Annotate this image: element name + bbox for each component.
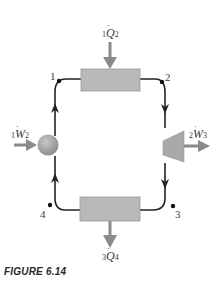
heat-in-label: 1·Q2 <box>102 27 119 39</box>
pump-icon <box>38 135 59 156</box>
work-in-label: 1·W2 <box>11 128 29 140</box>
heat-in-arrow <box>103 42 117 69</box>
state-label-3: 3 <box>175 209 181 220</box>
cycle-diagram <box>0 0 223 283</box>
state-label-1: 1 <box>50 71 56 82</box>
flow-loop <box>55 79 165 210</box>
state-point-4 <box>48 203 52 207</box>
figure-caption: FIGURE 6.14 <box>4 266 66 277</box>
cooler-box <box>80 197 140 221</box>
turbine-icon <box>163 131 184 162</box>
heater-box <box>81 69 140 91</box>
heat-out-arrow <box>103 221 117 248</box>
state-label-4: 4 <box>40 209 46 220</box>
state-label-2: 2 <box>165 72 171 83</box>
work-out-label: 2·W3 <box>189 128 207 140</box>
state-point-2 <box>160 80 164 84</box>
state-point-1 <box>57 79 61 83</box>
work-out-arrow <box>184 140 210 152</box>
heat-out-label: 3·Q4 <box>102 250 119 262</box>
